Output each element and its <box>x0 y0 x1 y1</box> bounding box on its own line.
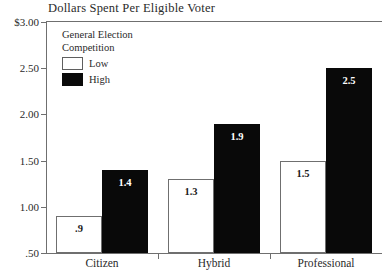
x-axis-label-citizen: Citizen <box>85 257 118 269</box>
bar-professional-high <box>326 68 372 253</box>
legend-swatch-high-icon <box>62 73 83 86</box>
y-axis-tick <box>41 114 47 115</box>
x-axis-tick <box>270 253 271 259</box>
y-axis-tick-label: .50 <box>25 247 39 259</box>
bar-value-label: 1.5 <box>296 168 309 179</box>
legend-title-line-2: Competition <box>62 42 133 55</box>
legend-item-low: Low <box>62 57 133 70</box>
y-axis-tick-label: 1.00 <box>20 201 39 213</box>
x-axis-line <box>46 253 382 254</box>
plot-frame-top-border <box>46 21 382 22</box>
y-axis-tick <box>41 253 47 254</box>
bar-chart: Dollars Spent Per Eligible Voter $3.002.… <box>0 0 388 280</box>
y-axis-tick <box>41 161 47 162</box>
y-axis-tick <box>41 68 47 69</box>
y-axis-tick-label: 1.50 <box>20 155 39 167</box>
y-axis-tick <box>41 207 47 208</box>
y-axis-line <box>46 21 47 254</box>
legend-item-high: High <box>62 73 133 86</box>
bar-value-label: 1.4 <box>118 177 131 188</box>
x-axis-tick <box>158 253 159 259</box>
bar-value-label: 1.3 <box>184 186 197 197</box>
legend-label-high: High <box>89 74 110 85</box>
y-axis-tick <box>41 22 47 23</box>
legend-label-low: Low <box>89 58 108 69</box>
bar-value-label: .9 <box>75 223 83 234</box>
y-axis-tick-label: 2.50 <box>20 62 39 74</box>
bar-value-label: 2.5 <box>342 75 355 86</box>
bar-value-label: 1.9 <box>230 131 243 142</box>
chart-title: Dollars Spent Per Eligible Voter <box>48 1 215 16</box>
x-axis-label-professional: Professional <box>298 257 355 269</box>
bar-hybrid-high <box>214 124 260 253</box>
bar-citizen-low <box>56 216 102 253</box>
legend-title-line-1: General Election <box>62 29 133 42</box>
x-axis-label-hybrid: Hybrid <box>198 257 231 269</box>
legend-swatch-low-icon <box>62 57 83 70</box>
y-axis-tick-label: $3.00 <box>14 16 39 28</box>
legend: General Election Competition Low High <box>62 29 133 86</box>
y-axis-tick-label: 2.00 <box>20 108 39 120</box>
